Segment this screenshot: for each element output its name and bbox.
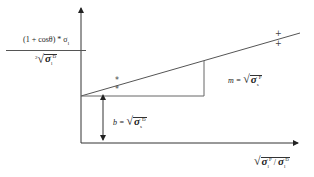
x-axis-label: √σlP / σlD <box>254 154 290 169</box>
slope-label-prefix: m = <box>228 76 241 85</box>
slope-label-sup: P <box>259 75 262 80</box>
x-label-sup-1: P <box>269 157 272 162</box>
data-marker-plus: + <box>275 40 282 48</box>
y-axis-label: (1 + cosθ) * σl 2√σlD <box>6 34 86 69</box>
intercept-label-prefix: b = <box>113 118 124 127</box>
fit-line <box>81 33 300 96</box>
x-label-divider: / <box>274 158 276 167</box>
intercept-label-sup: D <box>142 117 146 122</box>
slope-label-sub: s <box>257 82 259 87</box>
intercept-label-sub: s <box>140 124 142 129</box>
y-label-denominator-sub: l <box>51 61 52 66</box>
data-marker-asterisk: * <box>115 86 119 94</box>
y-label-denominator-sup: D <box>52 55 56 60</box>
y-label-numerator: (1 + cosθ) * σ <box>23 35 68 44</box>
x-label-sub-1: l <box>268 164 269 169</box>
data-marker-plus: + <box>275 30 282 38</box>
data-marker-asterisk: * <box>115 77 119 85</box>
intercept-label: b = √σsD <box>113 114 147 129</box>
diagram-canvas <box>0 0 314 177</box>
sqrt-icon: √ <box>126 114 133 128</box>
slope-label: m = √σsP <box>228 72 262 87</box>
sqrt-icon: √ <box>243 72 250 86</box>
x-label-sup-2: D <box>285 157 289 162</box>
x-label-sub-2: l <box>284 164 285 169</box>
sqrt-icon: √ <box>254 154 261 168</box>
y-label-numerator-sub: l <box>68 41 69 46</box>
